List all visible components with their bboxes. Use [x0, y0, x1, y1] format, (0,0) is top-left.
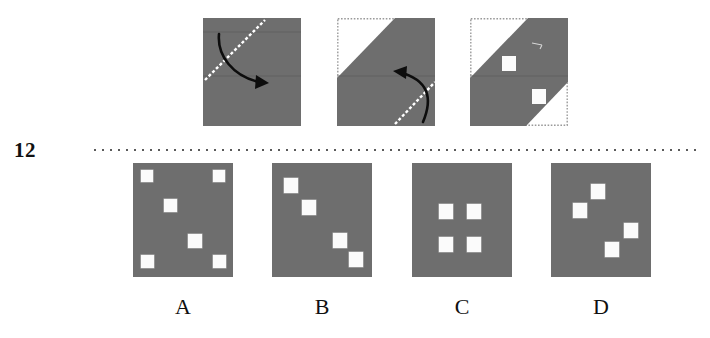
- option-paper: [551, 163, 651, 277]
- option-label-d: D: [551, 296, 651, 318]
- question-number: 12: [14, 140, 36, 161]
- punched-hole: [164, 199, 177, 212]
- dotted-divider: [94, 149, 702, 151]
- punched-hole: [439, 204, 453, 219]
- punched-hole: [573, 203, 587, 218]
- option-label-c: C: [412, 296, 512, 318]
- punched-hole: [502, 56, 516, 71]
- punched-hole: [624, 223, 638, 238]
- option-label-b: B: [272, 296, 372, 318]
- punched-hole: [591, 184, 605, 199]
- fold-step-1: [203, 18, 301, 126]
- punched-hole: [349, 252, 363, 267]
- punched-hole: [141, 170, 153, 182]
- punched-hole: [141, 255, 154, 268]
- punched-hole: [333, 233, 347, 248]
- option-d[interactable]: [551, 163, 651, 277]
- punched-hole: [605, 242, 619, 257]
- punched-hole: [188, 234, 202, 248]
- option-b[interactable]: [272, 163, 372, 277]
- option-a[interactable]: [133, 163, 233, 277]
- punched-hole: [213, 255, 226, 268]
- punched-hole: [532, 89, 546, 104]
- punched-hole: [213, 170, 225, 182]
- folded-paper: [470, 18, 568, 126]
- punched-hole: [302, 200, 316, 215]
- option-paper: [412, 163, 512, 277]
- fold-step-3: [470, 18, 568, 126]
- punched-hole: [439, 237, 453, 252]
- punched-hole: [467, 204, 481, 219]
- punched-hole: [284, 178, 298, 193]
- folded-paper: [337, 18, 435, 126]
- option-c[interactable]: [412, 163, 512, 277]
- fold-step-2: [337, 18, 435, 126]
- punched-hole: [467, 237, 481, 252]
- worksheet-page: 12: [0, 0, 710, 338]
- option-label-a: A: [133, 296, 233, 318]
